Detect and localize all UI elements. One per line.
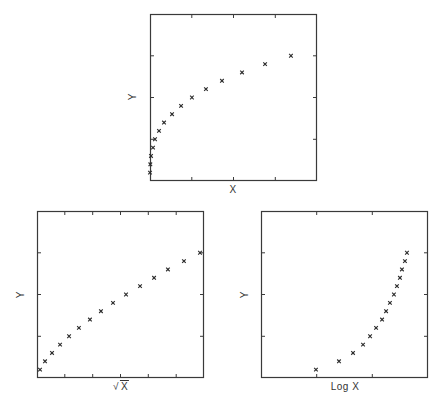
data-point-marker	[398, 276, 402, 280]
data-point-marker	[405, 251, 409, 255]
x-axis-label-log-x: Log X	[331, 381, 360, 392]
data-point-marker	[289, 54, 293, 58]
data-point-marker	[124, 293, 128, 297]
data-point-marker	[392, 293, 396, 297]
data-point-marker	[111, 301, 115, 305]
sqrt-symbol: √ X	[113, 381, 129, 392]
plot-y-vs-log-x-canvas	[261, 211, 428, 378]
data-point-marker	[138, 284, 142, 288]
y-axis-label-bottom-right: Y	[239, 292, 250, 299]
data-point-marker	[361, 343, 365, 347]
data-point-marker	[88, 318, 92, 322]
data-point-marker	[220, 79, 224, 83]
radicand: X	[120, 380, 129, 392]
data-point-marker	[67, 334, 71, 338]
data-point-marker	[151, 146, 155, 150]
data-point-marker	[314, 368, 318, 372]
data-point-marker	[43, 360, 47, 364]
data-point-marker	[50, 351, 54, 355]
plot-y-vs-x	[150, 14, 317, 181]
y-axis-label-top: Y	[127, 94, 138, 101]
data-point-marker	[403, 259, 407, 263]
y-axis-label-bottom-left: Y	[15, 292, 26, 299]
plot-y-vs-sqrt-x	[37, 211, 204, 378]
x-axis-label-x: X	[229, 184, 236, 195]
data-point-marker	[400, 268, 404, 272]
data-point-marker	[351, 351, 355, 355]
plot-frame	[38, 212, 204, 378]
plot-y-vs-sqrt-x-canvas	[37, 211, 204, 378]
data-point-marker	[179, 104, 183, 108]
data-point-marker	[99, 309, 103, 313]
data-point-marker	[170, 112, 174, 116]
data-point-marker	[395, 284, 399, 288]
data-point-marker	[152, 276, 156, 280]
data-point-marker	[368, 334, 372, 338]
data-point-marker	[38, 368, 42, 372]
plot-y-vs-x-canvas	[150, 14, 317, 181]
data-point-marker	[240, 71, 244, 75]
data-point-marker	[166, 268, 170, 272]
data-point-marker	[58, 343, 62, 347]
plot-frame	[151, 15, 317, 181]
data-point-marker	[182, 259, 186, 263]
data-point-marker	[263, 62, 267, 66]
data-point-marker	[337, 360, 341, 364]
data-point-marker	[204, 87, 208, 91]
data-point-marker	[77, 326, 81, 330]
plot-y-vs-log-x	[261, 211, 428, 378]
data-point-marker	[380, 318, 384, 322]
data-point-marker	[388, 301, 392, 305]
data-point-marker	[190, 96, 194, 100]
data-point-marker	[157, 129, 161, 133]
data-point-marker	[384, 309, 388, 313]
data-point-marker	[162, 121, 166, 125]
data-point-marker	[374, 326, 378, 330]
x-axis-label-sqrt-x: √ X	[113, 381, 129, 392]
plot-frame	[262, 212, 428, 378]
radical-sign: √	[113, 381, 119, 392]
